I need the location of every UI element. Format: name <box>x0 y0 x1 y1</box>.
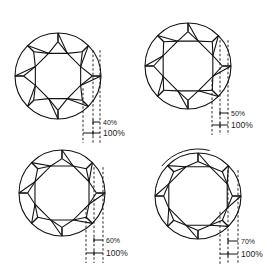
star-facet <box>24 76 36 85</box>
girdle-tick <box>168 220 174 226</box>
star-facet <box>198 225 210 230</box>
star-facet <box>164 90 178 91</box>
diamond-panel-60: 60%100% <box>19 150 128 263</box>
kite-facet <box>145 56 163 66</box>
star-facet <box>178 32 188 42</box>
table-percentage-label: 40% <box>103 119 117 126</box>
girdle-tick <box>222 166 228 172</box>
star-facet <box>34 52 36 67</box>
star-facet <box>188 91 198 101</box>
diamond-panel-40: 40%100% <box>15 33 125 143</box>
table-percentage-label: 70% <box>241 238 255 245</box>
star-facet <box>213 56 223 66</box>
diamond-table-diagram: 40%100% 50%100% 60%100% 70%100% <box>0 0 280 276</box>
table-percentage-label: 50% <box>231 110 245 117</box>
total-percentage-label: 100% <box>103 128 125 138</box>
star-facet <box>212 76 213 90</box>
total-percentage-label: 100% <box>241 249 263 259</box>
diamond-panel-70: 70%100% <box>155 149 263 264</box>
star-facet <box>62 159 73 166</box>
girdle-tick <box>168 166 174 172</box>
star-facet <box>164 41 178 42</box>
kite-facet <box>188 23 198 41</box>
star-facet <box>154 66 164 76</box>
star-facet <box>49 42 58 54</box>
total-percentage-label: 100% <box>106 248 128 258</box>
table-facet <box>35 166 89 220</box>
star-facet <box>186 162 198 167</box>
table-facet <box>35 53 80 98</box>
star-facet <box>198 90 212 91</box>
star-facet <box>58 99 67 111</box>
total-percentage-label: 100% <box>231 120 253 130</box>
girdle-tick <box>222 220 228 226</box>
kite-facet <box>168 166 186 167</box>
star-facet <box>51 220 62 227</box>
star-facet <box>51 159 62 166</box>
diamond-panel-50: 50%100% <box>145 23 253 135</box>
star-facet <box>81 85 83 100</box>
table-facet <box>163 41 213 91</box>
star-facet <box>89 182 96 193</box>
star-facet <box>89 193 96 204</box>
kite-facet <box>62 150 73 166</box>
star-facet <box>81 67 93 76</box>
star-facet <box>163 42 164 56</box>
kite-facet <box>210 225 228 226</box>
kite-facet <box>168 208 169 226</box>
star-facet <box>198 41 212 42</box>
star-facet <box>28 193 35 204</box>
kite-facet <box>51 220 62 236</box>
kite-facet <box>178 91 188 109</box>
star-facet <box>28 182 35 193</box>
kite-facet <box>19 182 35 193</box>
star-facet <box>163 76 164 90</box>
star-facet <box>62 220 73 227</box>
star-facet <box>212 42 213 56</box>
star-facet <box>164 196 169 208</box>
star-facet <box>34 99 49 101</box>
table-percentage-label: 60% <box>106 237 120 244</box>
table-facet <box>169 167 227 225</box>
star-facet <box>67 52 82 54</box>
